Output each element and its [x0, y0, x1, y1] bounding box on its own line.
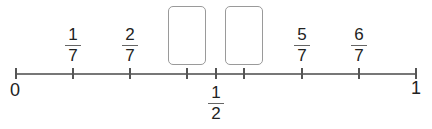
tick-0 [15, 68, 17, 79]
tick-1-2 [215, 68, 217, 79]
tick-1-7 [72, 68, 74, 79]
fraction-1-7: 1 7 [63, 26, 83, 65]
fraction-2-7: 2 7 [120, 26, 140, 65]
label-zero: 0 [10, 80, 20, 101]
tick-5-7 [301, 68, 303, 79]
answer-box-3-7[interactable] [168, 6, 206, 65]
answer-box-4-7[interactable] [225, 6, 263, 65]
tick-4-7 [243, 68, 245, 79]
fraction-5-7: 5 7 [292, 26, 312, 65]
fraction-1-2: 1 2 [206, 84, 226, 123]
label-one: 1 [411, 78, 421, 99]
tick-6-7 [358, 68, 360, 79]
fraction-6-7: 6 7 [349, 26, 369, 65]
tick-2-7 [129, 68, 131, 79]
tick-3-7 [186, 68, 188, 79]
